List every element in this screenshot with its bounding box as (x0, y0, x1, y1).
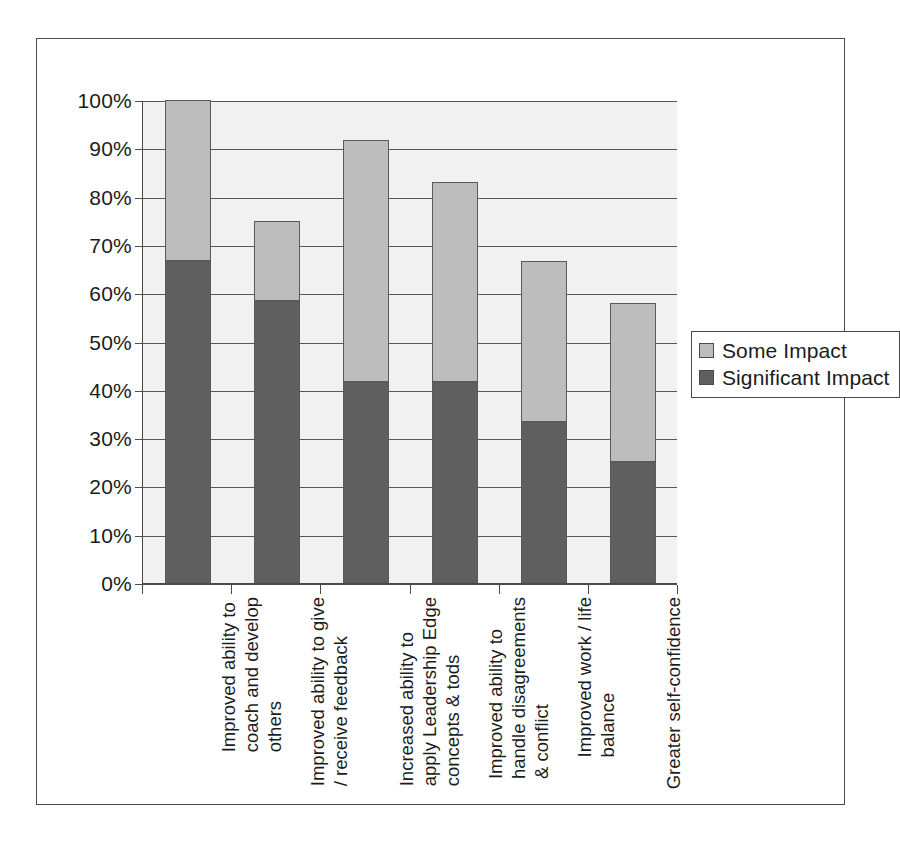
x-axis-label-line: Improved ability to (217, 597, 240, 752)
y-axis-label: 90% (89, 137, 132, 161)
x-axis-label-line: handle disagreements (507, 597, 530, 779)
bar-group (521, 100, 567, 583)
x-axis-label-line: & conflict (530, 597, 553, 779)
legend-label: Some Impact (722, 339, 847, 363)
y-axis-label: 30% (89, 427, 132, 451)
bar-group (610, 100, 656, 583)
gridline-40 (143, 391, 677, 392)
x-axis-label: Increased ability toapply Leadership Edg… (395, 597, 464, 786)
x-axis-label-line: coach and develop (240, 597, 263, 752)
chart-frame: 0%10%20%30%40%50%60%70%80%90%100% Improv… (36, 38, 845, 805)
x-axis-label: Improved work / lifebalance (573, 597, 619, 757)
gridline-30 (143, 439, 677, 440)
y-axis-label: 60% (89, 282, 132, 306)
x-axis-label-line: Greater self-confidence (662, 597, 685, 789)
x-axis-label-line: others (263, 597, 286, 752)
gridline-60 (143, 294, 677, 295)
x-tick (142, 585, 143, 594)
x-tick (231, 585, 232, 594)
bar-group (254, 100, 300, 583)
legend-label: Significant Impact (722, 366, 890, 390)
plot-area (142, 101, 677, 584)
bar-segment-some-impact (521, 261, 567, 422)
x-tick (677, 585, 678, 594)
x-axis-label-line: Improved ability to (484, 597, 507, 779)
gridline-100 (143, 101, 677, 102)
y-tick-40 (135, 391, 143, 392)
y-tick-10 (135, 536, 143, 537)
x-tick (588, 585, 589, 594)
bar-group (165, 100, 211, 583)
y-tick-60 (135, 294, 143, 295)
y-axis-label: 70% (89, 234, 132, 258)
y-tick-50 (135, 343, 143, 344)
bar-segment-significant-impact (432, 382, 478, 583)
y-tick-20 (135, 487, 143, 488)
x-tick (499, 585, 500, 594)
y-tick-100 (135, 101, 143, 102)
gridline-50 (143, 343, 677, 344)
x-axis-label-line: Improved work / life (573, 597, 596, 757)
x-axis-ticks (142, 585, 677, 595)
y-tick-30 (135, 439, 143, 440)
y-axis-label: 0% (101, 572, 132, 596)
y-axis-label: 50% (89, 331, 132, 355)
y-axis-label: 20% (89, 475, 132, 499)
gridline-80 (143, 198, 677, 199)
bar-segment-some-impact (610, 303, 656, 462)
x-tick (410, 585, 411, 594)
x-axis-label-line: concepts & tods (441, 597, 464, 786)
gridline-10 (143, 536, 677, 537)
bar-segment-some-impact (254, 221, 300, 302)
x-axis-label-line: Increased ability to (395, 597, 418, 786)
bar-segment-significant-impact (254, 301, 300, 583)
legend-swatch-icon (699, 343, 714, 358)
chart-legend: Some ImpactSignificant Impact (691, 331, 900, 398)
x-axis-label-line: balance (596, 597, 619, 757)
y-tick-80 (135, 198, 143, 199)
gridline-70 (143, 246, 677, 247)
bar-segment-significant-impact (343, 382, 389, 583)
bar-segment-significant-impact (165, 261, 211, 583)
bar-group (432, 100, 478, 583)
y-tick-70 (135, 246, 143, 247)
bar-segment-some-impact (343, 140, 389, 382)
gridline-20 (143, 487, 677, 488)
y-axis-label: 80% (89, 186, 132, 210)
x-axis-label-line: / receive feedback (329, 597, 352, 786)
x-axis-label: Improved ability to give/ receive feedba… (306, 597, 352, 786)
y-axis-label: 40% (89, 379, 132, 403)
bar-segment-some-impact (432, 182, 478, 381)
bar-segment-significant-impact (610, 462, 656, 583)
x-axis-label: Improved ability tohandle disagreements&… (484, 597, 553, 779)
bar-group (343, 100, 389, 583)
gridline-90 (143, 149, 677, 150)
y-axis-labels: 0%10%20%30%40%50%60%70%80%90%100% (37, 101, 132, 584)
x-axis-category-labels: Improved ability tocoach and developothe… (142, 597, 702, 837)
x-axis-label-line: Improved ability to give (306, 597, 329, 786)
y-axis-label: 100% (77, 89, 132, 113)
bar-segment-significant-impact (521, 422, 567, 583)
legend-item: Some Impact (699, 337, 890, 364)
x-axis-label-line: apply Leadership Edge (418, 597, 441, 786)
x-axis-label: Improved ability tocoach and developothe… (217, 597, 286, 752)
legend-swatch-icon (699, 370, 714, 385)
legend-item: Significant Impact (699, 364, 890, 391)
x-axis-label: Greater self-confidence (662, 597, 685, 789)
x-tick (320, 585, 321, 594)
y-tick-90 (135, 149, 143, 150)
y-axis-label: 10% (89, 524, 132, 548)
bar-segment-some-impact (165, 100, 211, 261)
